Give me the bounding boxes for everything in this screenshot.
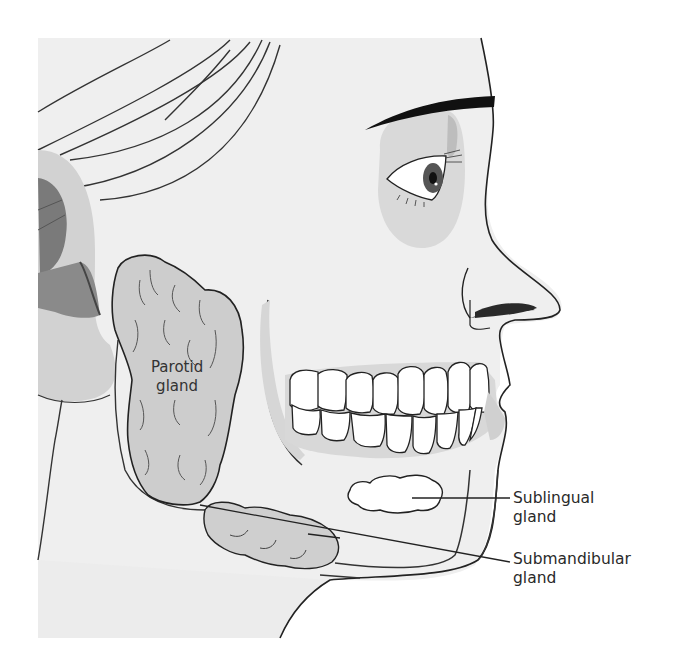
submandibular-label-line1: Submandibular bbox=[513, 550, 631, 569]
parotid-label-line2: gland bbox=[151, 377, 203, 396]
parotid-gland-label: Parotid gland bbox=[151, 358, 203, 396]
parotid-label-line1: Parotid bbox=[151, 358, 203, 377]
sublingual-gland-label: Sublingual gland bbox=[513, 489, 594, 527]
submandibular-label-line2: gland bbox=[513, 569, 631, 588]
salivary-gland-diagram: Parotid gland Sublingual gland Submandib… bbox=[0, 0, 684, 667]
submandibular-gland-label: Submandibular gland bbox=[513, 550, 631, 588]
sublingual-label-line2: gland bbox=[513, 508, 594, 527]
sublingual-label-line1: Sublingual bbox=[513, 489, 594, 508]
